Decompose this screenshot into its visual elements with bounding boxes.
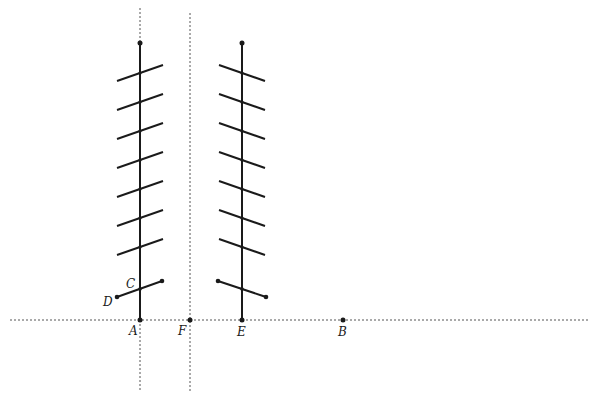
point-b-dot	[341, 318, 346, 323]
label-a: A	[128, 324, 138, 338]
label-c: C	[126, 277, 135, 291]
left-fin-joint	[138, 245, 141, 248]
point-c-dot	[138, 287, 142, 291]
label-d: D	[102, 295, 113, 309]
point-f-dot	[188, 318, 193, 323]
right-fin-joint	[240, 216, 243, 219]
point-e-dot	[240, 318, 245, 323]
illusion-diagram: A F E B C D	[0, 0, 601, 405]
left-fin-joint	[138, 216, 141, 219]
left-fin-joint	[138, 100, 141, 103]
dotted-reference-lines	[10, 8, 590, 392]
left-fin-end-dot	[160, 279, 165, 284]
label-f: F	[177, 324, 187, 338]
right-finned-shaft	[218, 43, 266, 320]
right-fin-joint	[240, 245, 243, 248]
left-fin-joint	[138, 129, 141, 132]
label-b: B	[337, 325, 347, 339]
right-fin-joint	[240, 187, 243, 190]
point-a-dot	[138, 318, 143, 323]
right-fin-joint	[240, 71, 243, 74]
point-d-dot	[115, 295, 120, 300]
right-shaft-top-dot	[240, 41, 245, 46]
right-fin-joint	[240, 129, 243, 132]
point-markers	[115, 41, 346, 323]
left-fin-joint	[138, 158, 141, 161]
right-fin-right-end-dot	[264, 295, 269, 300]
left-fin-joint	[138, 71, 141, 74]
point-labels: A F E B C D	[102, 277, 347, 339]
right-bottom-fin-joint	[240, 287, 244, 291]
left-fin-joint	[138, 187, 141, 190]
left-shaft-top-dot	[138, 41, 143, 46]
right-fin-left-end-dot	[216, 279, 221, 284]
right-fin-joint	[240, 158, 243, 161]
left-finned-shaft	[117, 43, 163, 320]
label-e: E	[236, 325, 246, 339]
right-fin-joint	[240, 100, 243, 103]
